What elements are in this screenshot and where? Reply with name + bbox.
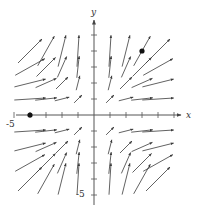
field-arrow xyxy=(146,39,170,63)
field-arrow xyxy=(120,77,132,89)
field-arrow xyxy=(120,141,132,153)
field-arrow xyxy=(108,76,112,90)
field-arrow xyxy=(56,77,68,89)
field-arrow xyxy=(122,35,130,66)
field-arrow xyxy=(37,154,56,173)
field-arrow xyxy=(132,78,153,87)
field-arrow xyxy=(14,143,45,151)
x-axis-label: x xyxy=(186,110,191,120)
marked-points xyxy=(27,48,144,117)
x-tick-label-neg5: -5 xyxy=(6,119,15,129)
field-arrow xyxy=(36,78,57,87)
field-arrow xyxy=(36,142,57,151)
field-arrow xyxy=(74,127,82,135)
field-arrow xyxy=(106,95,114,103)
field-arrow xyxy=(57,153,66,174)
field-arrow xyxy=(37,58,56,77)
field-arrow xyxy=(76,76,80,90)
field-arrow xyxy=(119,97,133,101)
field-arrow xyxy=(55,129,69,133)
field-arrow xyxy=(106,127,114,135)
field-arrow xyxy=(122,163,130,194)
marked-point xyxy=(139,48,144,53)
field-arrow xyxy=(56,141,68,153)
field-arrow xyxy=(142,79,173,87)
vector-field-figure: x y -5 -5 xyxy=(0,0,199,213)
field-arrow xyxy=(119,129,133,133)
field-arrow xyxy=(132,142,153,151)
field-arrow xyxy=(133,154,152,173)
field-arrow xyxy=(76,140,80,154)
field-arrow xyxy=(121,153,130,174)
field-arrow xyxy=(57,57,66,78)
field-arrow xyxy=(108,140,112,154)
field-arrow xyxy=(142,143,173,151)
field-arrow xyxy=(146,167,170,191)
field-arrow xyxy=(74,95,82,103)
field-arrow xyxy=(14,79,45,87)
field-arrow xyxy=(58,163,66,194)
field-arrow xyxy=(121,57,130,78)
y-axis-label: y xyxy=(90,7,97,17)
field-arrow xyxy=(58,35,66,66)
marked-point xyxy=(27,112,32,117)
field-arrow xyxy=(18,39,42,63)
field-arrow xyxy=(55,97,69,101)
